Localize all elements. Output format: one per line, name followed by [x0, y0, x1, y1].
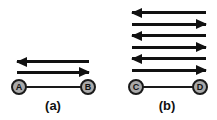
caption-b: (b)	[137, 98, 197, 113]
node-A: A	[11, 79, 27, 95]
arrow-stack-a	[17, 60, 89, 74]
rod-line-b	[136, 86, 200, 88]
arrow-right-icon	[132, 69, 206, 72]
caption-a: (a)	[23, 98, 83, 113]
rod-line-a	[19, 86, 88, 88]
arrow-left-icon	[132, 34, 206, 37]
arrow-left-icon	[132, 57, 206, 60]
arrow-right-icon	[17, 71, 89, 74]
arrow-right-icon	[132, 23, 206, 26]
arrow-stack-b	[132, 11, 206, 72]
figure: A B (a) C D (b)	[0, 0, 217, 120]
arrow-left-icon	[132, 11, 206, 14]
node-C: C	[128, 79, 144, 95]
node-B: B	[80, 79, 96, 95]
arrow-left-icon	[17, 60, 89, 63]
arrow-right-icon	[132, 46, 206, 49]
node-D: D	[192, 79, 208, 95]
